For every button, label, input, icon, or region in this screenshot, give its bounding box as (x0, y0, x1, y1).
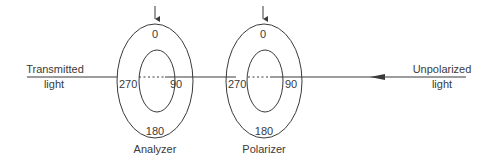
polarizer-label: Polarizer (242, 143, 286, 155)
unpolarized-light-label-line1: Unpolarized (413, 63, 472, 75)
beam-direction-arrow-icon (370, 74, 385, 80)
polarizer-inner-ring (247, 50, 283, 112)
polarizer-analyzer-diagram: 0 90 180 270 Analyzer 0 90 180 270 Polar… (0, 0, 486, 164)
analyzer-label: Analyzer (134, 143, 177, 155)
analyzer-angle-90: 90 (170, 78, 182, 90)
analyzer: 0 90 180 270 Analyzer (117, 6, 193, 155)
analyzer-angle-0: 0 (152, 28, 158, 40)
polarizer-angle-0: 0 (260, 28, 266, 40)
polarizer-angle-90: 90 (285, 78, 297, 90)
polarizer: 0 90 180 270 Polarizer (226, 6, 302, 155)
polarizer-angle-180: 180 (255, 125, 273, 137)
unpolarized-light-label-line2: light (432, 78, 452, 90)
analyzer-angle-180: 180 (146, 125, 164, 137)
transmitted-light-label-line2: light (44, 78, 64, 90)
transmitted-light-label-line1: Transmitted (26, 63, 84, 75)
analyzer-angle-270: 270 (119, 78, 137, 90)
polarizer-angle-270: 270 (228, 78, 246, 90)
